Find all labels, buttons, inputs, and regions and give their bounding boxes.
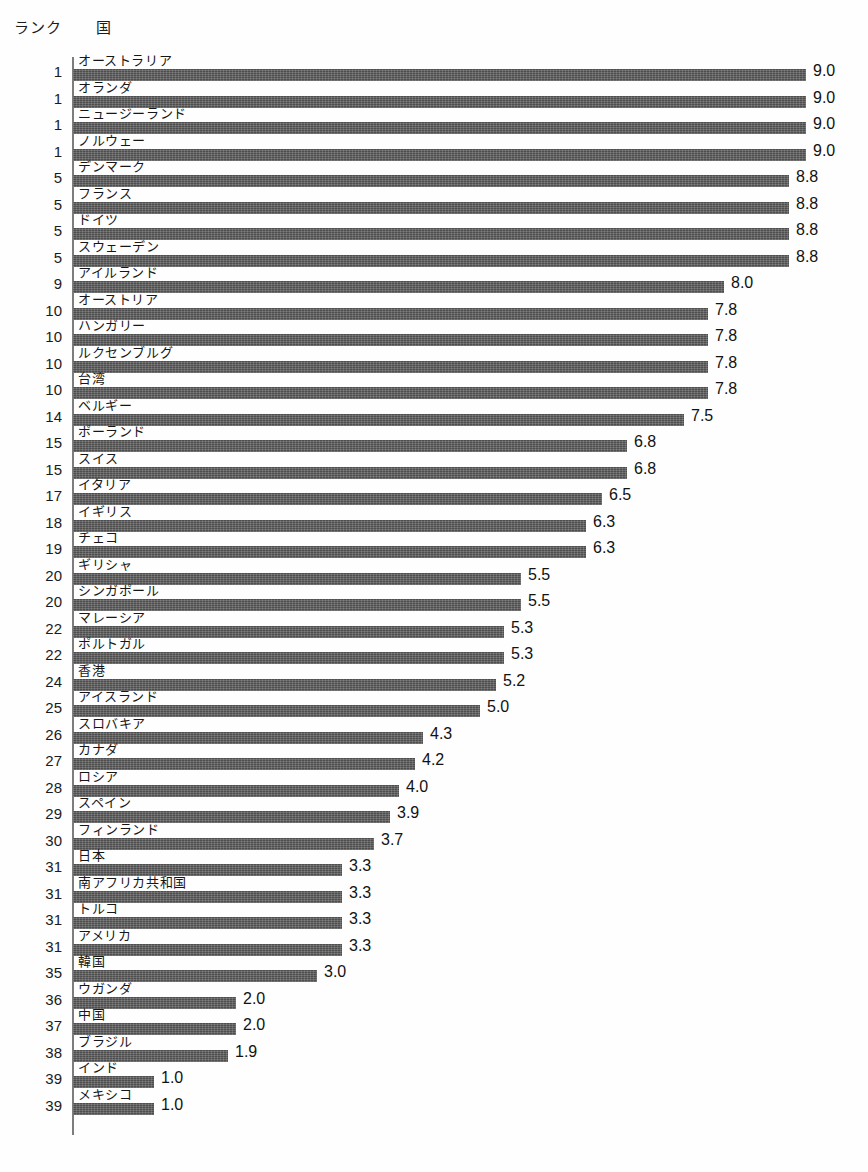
row-rank: 5 bbox=[0, 197, 62, 212]
row-value-label: 5.5 bbox=[528, 593, 550, 609]
row-bar bbox=[73, 414, 684, 426]
row-country-label: オーストラリア bbox=[78, 54, 172, 67]
row-value-label: 2.0 bbox=[243, 1017, 265, 1033]
row-rank: 22 bbox=[0, 647, 62, 662]
row-value-label: 4.0 bbox=[406, 779, 428, 795]
row-rank: 1 bbox=[0, 64, 62, 79]
row-country-label: 日本 bbox=[78, 849, 105, 862]
row-rank: 1 bbox=[0, 144, 62, 159]
row-rank: 5 bbox=[0, 250, 62, 265]
row-value-label: 9.0 bbox=[813, 63, 835, 79]
row-bar bbox=[73, 281, 724, 293]
row-bar bbox=[73, 202, 789, 214]
row-rank: 31 bbox=[0, 912, 62, 927]
bar-fill bbox=[73, 175, 789, 187]
row-rank: 14 bbox=[0, 409, 62, 424]
row-value-label: 6.3 bbox=[593, 540, 615, 556]
row-value-label: 8.8 bbox=[796, 169, 818, 185]
row-value-label: 3.9 bbox=[397, 805, 419, 821]
row-country-label: マレーシア bbox=[78, 611, 146, 624]
row-country-label: ウガンダ bbox=[78, 982, 132, 995]
row-country-label: スイス bbox=[78, 452, 119, 465]
row-bar bbox=[73, 308, 708, 320]
column-header-country: 国 bbox=[96, 16, 112, 37]
row-value-label: 5.3 bbox=[511, 620, 533, 636]
row-country-label: メキシコ bbox=[78, 1088, 132, 1101]
row-rank: 31 bbox=[0, 859, 62, 874]
row-value-label: 3.3 bbox=[349, 858, 371, 874]
bar-fill bbox=[73, 493, 602, 505]
row-rank: 38 bbox=[0, 1045, 62, 1060]
table-row: 5フランス8.8 bbox=[0, 190, 868, 217]
row-value-label: 1.0 bbox=[161, 1070, 183, 1086]
row-rank: 31 bbox=[0, 939, 62, 954]
table-row: 15ポーランド6.8 bbox=[0, 428, 868, 455]
row-bar bbox=[73, 652, 504, 664]
row-country-label: ベルギー bbox=[78, 399, 132, 412]
bar-fill bbox=[73, 944, 342, 956]
table-row: 18イギリス6.3 bbox=[0, 508, 868, 535]
row-country-label: ノルウェー bbox=[78, 134, 146, 147]
table-row: 39メキシコ1.0 bbox=[0, 1091, 868, 1118]
bar-fill bbox=[73, 228, 789, 240]
table-row: 36ウガンダ2.0 bbox=[0, 985, 868, 1012]
table-row: 22ポルトガル5.3 bbox=[0, 640, 868, 667]
row-rank: 26 bbox=[0, 727, 62, 742]
row-bar bbox=[73, 122, 806, 134]
row-country-label: 南アフリカ共和国 bbox=[78, 876, 187, 889]
row-rank: 18 bbox=[0, 515, 62, 530]
row-country-label: シンガポール bbox=[78, 584, 160, 597]
row-value-label: 7.8 bbox=[715, 381, 737, 397]
row-country-label: ニュージーランド bbox=[78, 107, 187, 120]
row-bar bbox=[73, 175, 789, 187]
row-bar bbox=[73, 1103, 154, 1115]
row-bar bbox=[73, 255, 789, 267]
row-country-label: フィンランド bbox=[78, 823, 160, 836]
bar-fill bbox=[73, 122, 806, 134]
row-value-label: 7.8 bbox=[715, 328, 737, 344]
row-country-label: オーストリア bbox=[78, 293, 159, 306]
row-bar bbox=[73, 149, 806, 161]
row-country-label: ブラジル bbox=[78, 1035, 132, 1048]
row-bar bbox=[73, 440, 627, 452]
row-rank: 30 bbox=[0, 833, 62, 848]
row-value-label: 1.0 bbox=[161, 1097, 183, 1113]
row-value-label: 8.8 bbox=[796, 249, 818, 265]
bar-fill bbox=[73, 758, 415, 770]
row-value-label: 5.2 bbox=[503, 673, 525, 689]
row-value-label: 3.3 bbox=[349, 885, 371, 901]
row-country-label: ルクセンブルグ bbox=[78, 346, 173, 359]
bar-fill bbox=[73, 414, 684, 426]
row-country-label: スペイン bbox=[78, 796, 131, 809]
row-rank: 28 bbox=[0, 780, 62, 795]
row-value-label: 7.8 bbox=[715, 355, 737, 371]
row-value-label: 6.8 bbox=[634, 461, 656, 477]
row-rank: 24 bbox=[0, 674, 62, 689]
table-row: 31南アフリカ共和国3.3 bbox=[0, 879, 868, 906]
bar-fill bbox=[73, 838, 374, 850]
bar-fill bbox=[73, 69, 806, 81]
row-country-label: 香港 bbox=[78, 664, 105, 677]
row-bar bbox=[73, 467, 627, 479]
row-value-label: 8.0 bbox=[731, 275, 753, 291]
row-rank: 39 bbox=[0, 1071, 62, 1086]
row-bar bbox=[73, 546, 586, 558]
row-rank: 17 bbox=[0, 488, 62, 503]
row-bar bbox=[73, 387, 708, 399]
row-value-label: 4.3 bbox=[430, 726, 452, 742]
row-country-label: アイスランド bbox=[78, 690, 159, 703]
bar-fill bbox=[73, 255, 789, 267]
row-value-label: 5.0 bbox=[487, 699, 509, 715]
row-value-label: 5.3 bbox=[511, 646, 533, 662]
row-country-label: インド bbox=[78, 1061, 119, 1074]
bar-fill bbox=[73, 308, 708, 320]
row-value-label: 5.5 bbox=[528, 567, 550, 583]
bar-fill bbox=[73, 440, 627, 452]
row-rank: 22 bbox=[0, 621, 62, 636]
row-rank: 35 bbox=[0, 965, 62, 980]
row-rank: 25 bbox=[0, 700, 62, 715]
row-value-label: 2.0 bbox=[243, 991, 265, 1007]
bar-fill bbox=[73, 387, 708, 399]
row-rank: 36 bbox=[0, 992, 62, 1007]
chart-page: ランク 国 1オーストラリア9.01オランダ9.01ニュージーランド9.01ノル… bbox=[0, 0, 868, 1172]
